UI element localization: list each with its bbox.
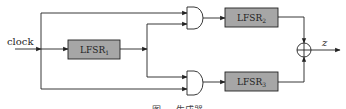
clock-label: clock	[7, 36, 34, 47]
lfsr3-block: LFSR3	[225, 72, 278, 91]
lfsr1-block: LFSR1	[68, 40, 120, 59]
xor-gate-icon	[297, 43, 311, 57]
lfsr2-block: LFSR2	[225, 8, 278, 27]
svg-text:LFSR3: LFSR3	[237, 77, 266, 88]
lfsr3-label: LFSR	[237, 77, 262, 87]
lfsr3-subscript: 3	[262, 81, 266, 88]
lfsr1-label: LFSR	[80, 45, 105, 55]
figure-caption: 图 … 生成器	[152, 104, 203, 109]
lfsr3-to-xor-arrow	[278, 57, 304, 82]
lfsr1-subscript: 1	[105, 49, 109, 56]
and-gate-bottom-icon	[187, 71, 203, 95]
lfsr2-label: LFSR	[237, 13, 262, 23]
output-label: z	[321, 37, 328, 48]
lfsr2-to-xor-arrow	[278, 17, 304, 43]
lfsr2-subscript: 2	[262, 17, 266, 24]
svg-text:LFSR2: LFSR2	[237, 13, 266, 24]
and-gate-top-icon	[187, 7, 203, 29]
diagram-canvas: clock LFSR1 LFSR2 LFSR3 z	[0, 0, 346, 109]
svg-text:LFSR1: LFSR1	[80, 45, 109, 56]
